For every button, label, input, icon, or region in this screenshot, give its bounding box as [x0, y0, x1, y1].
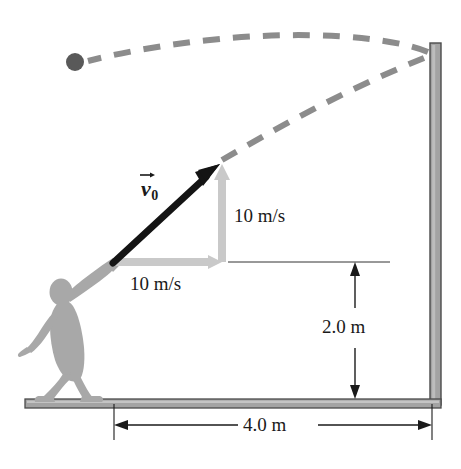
trajectory-path [88, 35, 428, 160]
height-dimension-label: 2.0 m [322, 317, 365, 336]
velocity-components [113, 164, 230, 269]
v0-subscript: 0 [151, 188, 158, 203]
projectile-figure: v0 10 m/s 10 m/s 2.0 m 4.0 m [0, 0, 461, 469]
velocity-vector-v0 [113, 164, 220, 263]
v0-symbol-wrap: v [141, 178, 151, 200]
thrower-silhouette [18, 258, 122, 402]
height-dimension-arrow-top [350, 262, 360, 276]
trajectory-ascending [222, 58, 424, 160]
range-dimension-arrow-left [114, 420, 128, 430]
range-dimension-label: 4.0 m [243, 415, 286, 434]
wall-highlight [432, 45, 435, 402]
figure-graphics [0, 0, 461, 469]
trajectory-apex [88, 35, 428, 61]
v0-symbol: v [141, 176, 151, 201]
person-torso [50, 301, 84, 382]
v0-label: v0 [141, 178, 158, 203]
projectile-ball [66, 53, 84, 71]
person-front-foot [80, 396, 103, 402]
range-dimension-arrow-right [418, 420, 432, 430]
horizontal-component-label: 10 m/s [130, 274, 181, 293]
height-dimension-arrow-bottom [350, 385, 360, 399]
v0-shaft [113, 177, 206, 263]
wall-body [430, 43, 441, 405]
vertical-component-label: 10 m/s [234, 206, 285, 225]
wall [430, 43, 441, 405]
person-back-foot [35, 396, 55, 402]
